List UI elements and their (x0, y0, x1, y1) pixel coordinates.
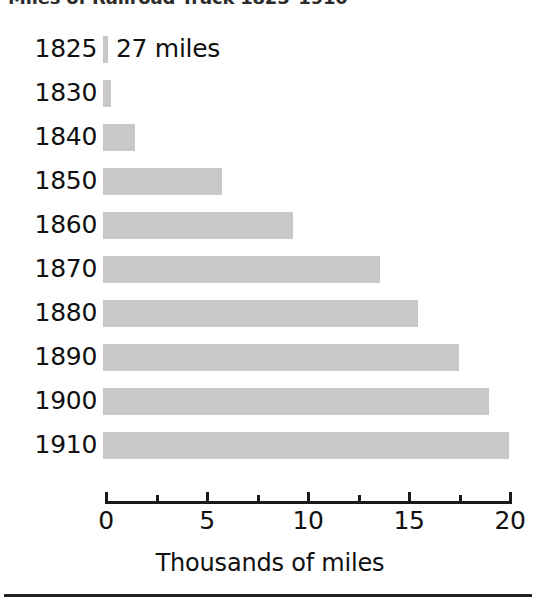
bar (103, 36, 108, 63)
x-axis-major-tick (408, 492, 411, 504)
bar-row: 1830 (0, 71, 540, 115)
bar (103, 168, 222, 195)
bar-row: 1850 (0, 159, 540, 203)
bar-year-label: 1900 (0, 379, 97, 423)
bar-row: 1900 (0, 379, 540, 423)
bar-year-label: 1825 (0, 27, 97, 71)
bar-value-annotation: 27 miles (116, 27, 220, 71)
x-axis-major-tick (509, 492, 512, 504)
x-axis-minor-tick (459, 495, 462, 504)
bar-year-label: 1880 (0, 291, 97, 335)
chart-plot-area: 182527 miles1830184018501860187018801890… (0, 11, 540, 491)
bar (103, 256, 380, 283)
bar-year-label: 1870 (0, 247, 97, 291)
x-axis: 05101520 (0, 491, 540, 551)
bar-row: 182527 miles (0, 27, 540, 71)
x-axis-title: Thousands of miles (0, 549, 540, 577)
bar-year-label: 1890 (0, 335, 97, 379)
x-axis-tick-label: 15 (379, 506, 439, 535)
x-axis-minor-tick (358, 495, 361, 504)
chart-title: Miles of Railroad Track 1825–1910 (8, 0, 348, 8)
bar-row: 1880 (0, 291, 540, 335)
x-axis-tick-label: 10 (278, 506, 338, 535)
bar-year-label: 1830 (0, 71, 97, 115)
bar (103, 432, 509, 459)
bar-year-label: 1850 (0, 159, 97, 203)
bottom-divider (4, 594, 532, 597)
bar-row: 1870 (0, 247, 540, 291)
x-axis-minor-tick (156, 495, 159, 504)
bar (103, 300, 418, 327)
bar-row: 1910 (0, 423, 540, 467)
x-axis-tick-label: 20 (480, 506, 540, 535)
bar (103, 124, 135, 151)
bar-row: 1890 (0, 335, 540, 379)
bar (103, 344, 459, 371)
bar (103, 212, 293, 239)
bar-year-label: 1840 (0, 115, 97, 159)
chart-title-clipped: Miles of Railroad Track 1825–1910 (0, 0, 540, 11)
x-axis-tick-label: 5 (177, 506, 237, 535)
bar (103, 388, 489, 415)
bar (103, 80, 111, 107)
bar-row: 1860 (0, 203, 540, 247)
x-axis-tick-label: 0 (76, 506, 136, 535)
bar-row: 1840 (0, 115, 540, 159)
x-axis-major-tick (307, 492, 310, 504)
bar-year-label: 1860 (0, 203, 97, 247)
x-axis-major-tick (105, 492, 108, 504)
x-axis-major-tick (206, 492, 209, 504)
x-axis-minor-tick (257, 495, 260, 504)
bar-year-label: 1910 (0, 423, 97, 467)
